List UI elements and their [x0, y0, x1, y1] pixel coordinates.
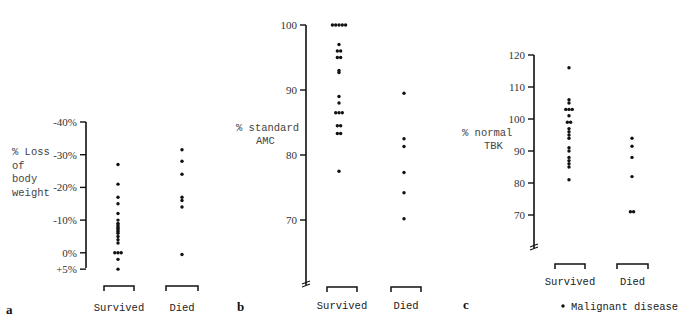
data-point [336, 49, 339, 52]
data-point [567, 178, 570, 181]
panel-b: 100908070% standardAMCSurvivedDiedb [236, 19, 421, 314]
data-point [571, 108, 574, 111]
y-axis-label: % normal [462, 127, 512, 139]
data-point [180, 205, 183, 208]
data-point [567, 165, 570, 168]
data-point [629, 210, 632, 213]
data-point [116, 218, 119, 221]
y-tick-label: 0% [62, 247, 77, 259]
data-point [402, 191, 405, 194]
data-point [567, 137, 570, 140]
data-point [116, 230, 119, 233]
data-point [339, 56, 342, 59]
data-point [337, 170, 340, 173]
data-point [180, 173, 183, 176]
panel-letter: b [237, 299, 244, 314]
data-point [116, 258, 119, 261]
data-point [630, 145, 633, 148]
data-point [334, 23, 337, 26]
y-tick-label: 100 [281, 19, 298, 31]
category-label: Survived [317, 300, 367, 312]
data-point [116, 202, 119, 205]
data-point [567, 114, 570, 117]
y-tick-label: -20% [53, 181, 77, 193]
data-point [339, 124, 342, 127]
data-point [116, 251, 119, 254]
data-point [567, 162, 570, 165]
data-point [402, 92, 405, 95]
data-point [567, 156, 570, 159]
data-point [341, 23, 344, 26]
data-point [116, 223, 119, 226]
data-point [113, 251, 116, 254]
data-point [180, 253, 183, 256]
category-bracket [617, 264, 648, 269]
data-point [116, 241, 119, 244]
y-tick-label: 120 [509, 49, 526, 61]
data-point [567, 149, 570, 152]
category-bracket [391, 287, 421, 292]
y-tick-label: 70 [514, 209, 526, 221]
data-point [567, 108, 570, 111]
data-point [569, 121, 572, 124]
y-tick-label: 80 [286, 149, 298, 161]
y-axis-label: AMC [256, 135, 275, 147]
y-axis-label: TBK [484, 140, 504, 152]
data-point [630, 175, 633, 178]
data-point [337, 71, 340, 74]
y-tick-label: -10% [53, 214, 77, 226]
y-axis-label: of [12, 160, 25, 172]
y-tick-label: 100 [509, 113, 526, 125]
category-label: Died [620, 276, 645, 288]
data-point [632, 210, 635, 213]
data-point [341, 111, 344, 114]
data-point [630, 137, 633, 140]
data-point [339, 49, 342, 52]
data-point [567, 133, 570, 136]
data-point [120, 251, 123, 254]
data-point [116, 227, 119, 230]
y-axis-label: weight [12, 187, 50, 199]
data-point [564, 108, 567, 111]
category-label: Survived [94, 302, 144, 314]
data-point [116, 196, 119, 199]
y-axis-label: % Loss [12, 146, 50, 158]
y-tick-label: +5% [56, 263, 77, 275]
data-point [344, 23, 347, 26]
data-point [337, 43, 340, 46]
data-point [116, 212, 119, 215]
data-point [337, 111, 340, 114]
category-bracket [166, 286, 198, 291]
y-tick-label: 80 [514, 177, 526, 189]
category-label: Died [393, 300, 418, 312]
y-tick-label: 70 [286, 214, 298, 226]
data-point [337, 23, 340, 26]
data-point [402, 217, 405, 220]
data-point [630, 156, 633, 159]
category-label: Died [169, 302, 194, 314]
data-point [567, 130, 570, 133]
data-point [567, 127, 570, 130]
data-point [336, 124, 339, 127]
data-point [116, 182, 119, 185]
panel-a: -40%-30%-20%-10%0%+5%% LossofbodyweightS… [6, 116, 198, 317]
legend-marker-icon [561, 304, 564, 307]
data-point [567, 159, 570, 162]
data-point [567, 101, 570, 104]
category-label: Survived [545, 276, 595, 288]
data-point [337, 95, 340, 98]
y-tick-label: -40% [53, 116, 77, 128]
data-point [566, 121, 569, 124]
legend: Malignant disease [561, 301, 678, 313]
data-point [334, 111, 337, 114]
y-tick-label: 90 [514, 145, 526, 157]
data-point [402, 171, 405, 174]
y-tick-label: 90 [286, 84, 298, 96]
data-point [116, 163, 119, 166]
y-axis-label: % standard [236, 122, 299, 134]
data-point [116, 267, 119, 270]
data-point [402, 137, 405, 140]
category-bracket [555, 264, 585, 269]
data-point [337, 101, 340, 104]
panel-letter: a [6, 302, 13, 317]
